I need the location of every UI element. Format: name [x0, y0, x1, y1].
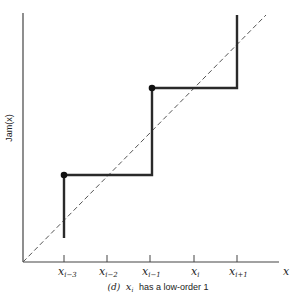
figure-caption: (d) xi has a low-order 1 — [108, 281, 209, 294]
jam-function-diagram: Jam(x) xi−3 xi−2 xi−1 xi xi+1 x (d) xi h… — [0, 0, 297, 298]
svg-text:xi−2: xi−2 — [99, 265, 118, 279]
filled-dot-1 — [61, 172, 68, 179]
filled-dot-2 — [149, 85, 156, 92]
svg-text:xi−3: xi−3 — [58, 265, 77, 279]
svg-text:xi+1: xi+1 — [229, 265, 248, 279]
svg-text:xi−1: xi−1 — [142, 265, 161, 279]
x-axis-label: x — [283, 265, 290, 278]
x-axis-ticks — [64, 255, 237, 262]
diagonal-reference-line — [23, 15, 266, 262]
y-axis-label: Jam(x) — [4, 114, 14, 142]
x-tick-labels: xi−3 xi−2 xi−1 xi xi+1 — [58, 265, 248, 279]
svg-text:xi: xi — [191, 265, 199, 279]
jam-step-function — [64, 15, 237, 238]
